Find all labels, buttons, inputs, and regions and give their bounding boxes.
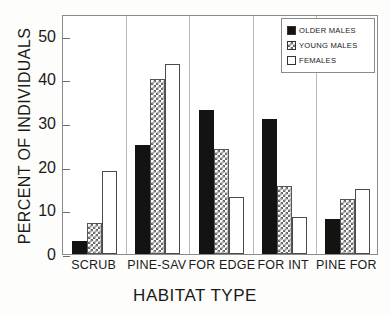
- bar-pine-for-older-males: [325, 219, 340, 254]
- x-axis-title: HABITAT TYPE: [0, 286, 390, 306]
- x-axis-tick-label: FOR INT: [252, 258, 315, 272]
- y-axis-tick: [63, 256, 70, 257]
- legend-item: FEMALES: [287, 54, 370, 67]
- y-axis-tick-label: 10: [22, 203, 56, 219]
- solid-black-swatch: [287, 26, 296, 35]
- y-axis-tick-label: 0: [22, 247, 56, 263]
- legend-item: YOUNG MALES: [287, 39, 370, 52]
- y-axis-title: PERCENT OF INDIVIDUALS: [16, 14, 38, 259]
- checkerboard-swatch: [287, 41, 296, 50]
- y-axis-tick: [63, 125, 70, 126]
- y-axis-tick-label: 50: [22, 29, 56, 45]
- legend-item-label: OLDER MALES: [299, 26, 356, 35]
- bar-for-edge-females: [229, 197, 244, 254]
- bar-pine-sav-older-males: [135, 145, 150, 254]
- bar-scrub-young-males: [87, 223, 102, 254]
- bar-pine-for-females: [355, 189, 370, 254]
- legend: OLDER MALESYOUNG MALESFEMALES: [281, 18, 375, 73]
- y-axis-tick-label: 20: [22, 160, 56, 176]
- group-separator: [126, 16, 127, 254]
- group-separator: [189, 16, 190, 254]
- bar-scrub-females: [102, 171, 117, 254]
- x-axis-tick-label: PINE FOR: [315, 258, 378, 272]
- x-axis-tick-label: SCRUB: [62, 258, 125, 272]
- bar-pine-for-young-males: [340, 199, 355, 254]
- white-swatch: [287, 56, 296, 65]
- bar-pine-sav-young-males: [150, 79, 165, 254]
- bar-for-edge-young-males: [214, 149, 229, 254]
- bar-pine-sav-females: [165, 64, 180, 254]
- y-axis-tick-label: 30: [22, 116, 56, 132]
- legend-item: OLDER MALES: [287, 24, 370, 37]
- bar-chart-figure: PERCENT OF INDIVIDUALS 01020304050 SCRUB…: [0, 0, 390, 316]
- x-axis-tick-label: FOR EDGE: [188, 258, 251, 272]
- bar-for-edge-older-males: [199, 110, 214, 254]
- bar-for-int-females: [292, 217, 307, 254]
- y-axis-tick: [63, 38, 70, 39]
- y-axis-tick: [63, 81, 70, 82]
- bar-for-int-older-males: [262, 119, 277, 254]
- bar-scrub-older-males: [72, 241, 87, 254]
- y-axis-tick: [63, 169, 70, 170]
- bar-for-int-young-males: [277, 186, 292, 254]
- legend-item-label: YOUNG MALES: [299, 41, 357, 50]
- y-axis-tick: [63, 212, 70, 213]
- x-axis-tick-label: PINE-SAV: [125, 258, 188, 272]
- y-axis-tick-label: 40: [22, 72, 56, 88]
- group-separator: [253, 16, 254, 254]
- legend-item-label: FEMALES: [299, 56, 336, 65]
